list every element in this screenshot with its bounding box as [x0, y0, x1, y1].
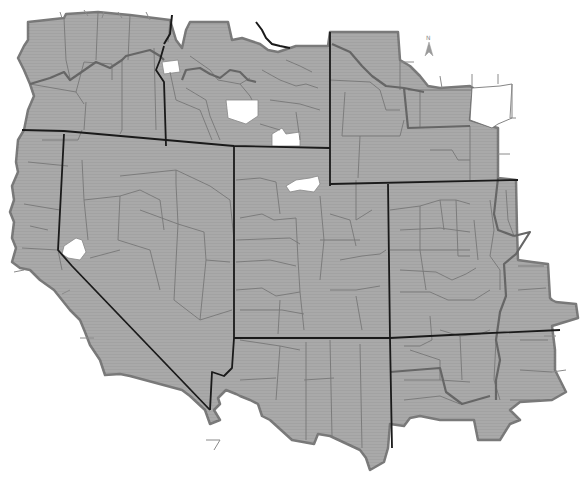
north-arrow: N — [425, 34, 433, 56]
excluded-area-east — [470, 84, 512, 128]
map-canvas: N — [0, 0, 580, 478]
north-arrow-icon — [425, 42, 433, 56]
excluded-area-north-1 — [162, 60, 180, 74]
north-arrow-label: N — [426, 34, 431, 41]
landmass — [10, 12, 578, 470]
